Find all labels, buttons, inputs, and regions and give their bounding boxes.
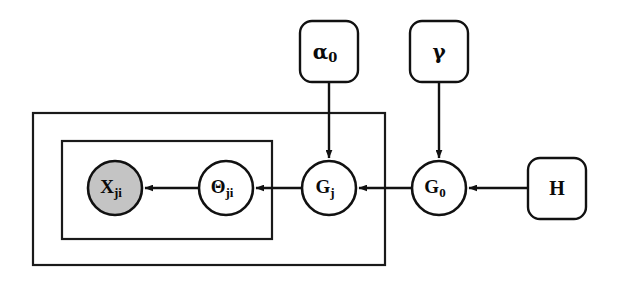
- param-gamma: γ: [410, 21, 468, 82]
- graphical-model-diagram: Xji Θji Gj G0 α0 γ: [0, 0, 619, 282]
- node-g-j: Gj: [302, 161, 356, 215]
- param-gamma-label: γ: [432, 39, 446, 63]
- param-h: H: [528, 158, 586, 219]
- param-alpha0: α0: [300, 21, 358, 82]
- param-h-label: H: [549, 176, 565, 198]
- node-theta-ji: Θji: [199, 161, 253, 215]
- node-x-ji: Xji: [88, 161, 142, 215]
- diagram-canvas: Xji Θji Gj G0 α0 γ: [0, 0, 619, 282]
- node-g-0: G0: [412, 161, 466, 215]
